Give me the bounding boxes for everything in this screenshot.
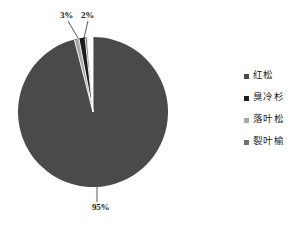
legend-item-luoyesong[interactable]: 落叶松 bbox=[244, 114, 284, 126]
legend-item-hongsong[interactable]: 红松 bbox=[244, 70, 274, 82]
legend-label: 落叶松 bbox=[253, 115, 284, 125]
legend-label: 红松 bbox=[253, 71, 274, 81]
legend: 红松 臭冷杉 落叶松 裂叶榆 bbox=[244, 64, 296, 160]
legend-swatch-icon bbox=[244, 96, 249, 101]
pie-svg bbox=[0, 0, 210, 226]
legend-item-choulengshan[interactable]: 臭冷杉 bbox=[244, 92, 284, 104]
leader-line-choulengshan bbox=[68, 21, 78, 38]
pie-chart-figure: 95% 3% 2% 红松 臭冷杉 落叶松 裂叶榆 bbox=[0, 0, 296, 226]
leader-line-luoyesong bbox=[84, 21, 88, 38]
data-label-choulengshan: 3% bbox=[60, 11, 73, 20]
legend-swatch-icon bbox=[244, 140, 249, 145]
pie-plot-area: 95% 3% 2% bbox=[0, 0, 210, 226]
data-label-hongsong: 95% bbox=[92, 203, 109, 212]
legend-item-lieyeyu[interactable]: 裂叶榆 bbox=[244, 136, 284, 148]
data-label-luoyesong: 2% bbox=[81, 11, 94, 20]
legend-swatch-icon bbox=[244, 74, 249, 79]
legend-label: 臭冷杉 bbox=[253, 93, 284, 103]
legend-label: 裂叶榆 bbox=[253, 137, 284, 147]
legend-swatch-icon bbox=[244, 118, 249, 123]
